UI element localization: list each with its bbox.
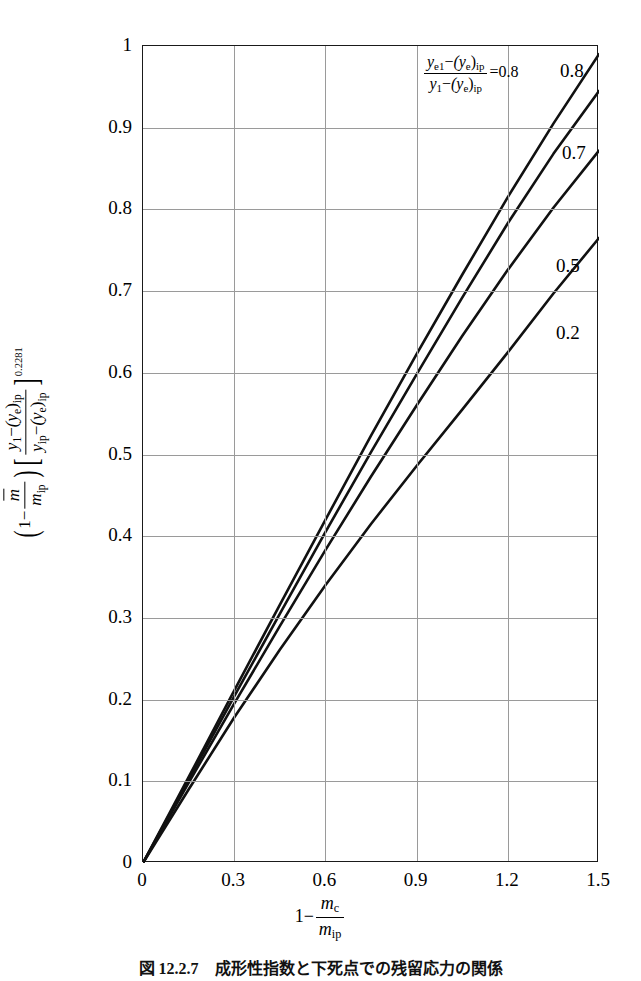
gridline-x-0.6 <box>325 46 326 861</box>
ye2-close: ) <box>28 402 47 408</box>
x-tick-label-1.2: 1.2 <box>477 869 537 891</box>
x-title-minus: − <box>304 906 314 926</box>
annot-ye2-ip: ip <box>474 82 482 94</box>
gridline-y-0.6 <box>143 373 597 374</box>
x-tick-label-0.6: 0.6 <box>294 869 354 891</box>
gridline-y-0.4 <box>143 536 597 537</box>
mc-sub: c <box>334 901 339 915</box>
annot-ye-ip: ip <box>476 60 484 72</box>
x-tick-label-0: 0 <box>112 869 172 891</box>
y-title-minus: − <box>15 511 34 521</box>
ye2-sub: e <box>36 407 49 412</box>
series-ratio-annotation: ye1−(ye)ipy1−(ye)ip=0.8 <box>422 53 519 94</box>
ye-ip-sub: ip <box>11 394 24 403</box>
figure-chart-12-2-7: (1−mmip)[y1−(ye)ipyip−(ye)ip]0.2281 ye1−… <box>0 0 641 981</box>
annot-ye-open: (y <box>453 53 465 70</box>
mip-sub: ip <box>332 928 342 942</box>
curve-0.2 <box>143 238 599 863</box>
gridline-x-1.2 <box>508 46 509 861</box>
y-tick-label-0.6: 0.6 <box>0 361 132 383</box>
annotation-value: =0.8 <box>489 63 518 80</box>
m-ip-sub: ip <box>35 484 48 493</box>
x-tick-label-0.3: 0.3 <box>203 869 263 891</box>
x-title-fraction: mcmip <box>316 893 345 942</box>
ye2-ip-sub: ip <box>36 393 49 402</box>
y-tick-label-0.4: 0.4 <box>0 524 132 546</box>
gridline-x-0.9 <box>417 46 418 861</box>
gridline-y-0.9 <box>143 128 597 129</box>
curve-0.5 <box>143 151 599 863</box>
ye2-open: (y <box>28 412 47 425</box>
y-tick-label-0.5: 0.5 <box>0 443 132 465</box>
ye-sub: e <box>11 409 24 414</box>
y-tick-label-0.1: 0.1 <box>0 769 132 791</box>
y-tick-label-0.7: 0.7 <box>0 279 132 301</box>
x-tick-label-0.9: 0.9 <box>386 869 446 891</box>
y-title-mbar-fraction: mmip <box>3 481 48 508</box>
y-tick-label-0.9: 0.9 <box>0 116 132 138</box>
curve-label-0.8: 0.8 <box>560 60 584 82</box>
plot-area <box>142 45 598 862</box>
gridline-y-0.2 <box>143 700 597 701</box>
figure-caption: 図 12.2.7 成形性指数と下死点での残留応力の関係 <box>0 955 641 979</box>
x-tick-label-1.5: 1.5 <box>568 869 628 891</box>
m-ip-base: m <box>26 493 45 505</box>
ye-close: ) <box>2 403 21 409</box>
mip-base: m <box>319 919 332 939</box>
annotation-fraction: ye1−(ye)ipy1−(ye)ip <box>424 53 487 94</box>
gridline-y-0.3 <box>143 618 597 619</box>
annot-ye2-open: (y <box>451 75 463 92</box>
gridline-y-0.8 <box>143 209 597 210</box>
y-tick-label-0.8: 0.8 <box>0 197 132 219</box>
mc-base: m <box>321 893 334 913</box>
gridline-x-0.3 <box>234 46 235 861</box>
x-axis-title: 1−mcmip <box>0 893 641 942</box>
y-tick-label-1: 1 <box>0 34 132 56</box>
m-bar: m <box>3 489 23 501</box>
ye-open: (y <box>2 414 21 427</box>
gridline-y-0.1 <box>143 781 597 782</box>
y-title-close-paren: ) <box>12 470 39 477</box>
gridline-y-0.5 <box>143 455 597 456</box>
x-title-lead: 1 <box>295 906 304 926</box>
y-tick-label-0.3: 0.3 <box>0 606 132 628</box>
annot-y1-base: y <box>429 75 436 92</box>
annot-ye1-sub: e1 <box>434 60 444 72</box>
curve-label-0.5: 0.5 <box>556 255 580 277</box>
curve-label-0.7: 0.7 <box>562 142 586 164</box>
y-tick-label-0.2: 0.2 <box>0 688 132 710</box>
curve-label-0.2: 0.2 <box>556 322 580 344</box>
gridline-y-0.7 <box>143 291 597 292</box>
